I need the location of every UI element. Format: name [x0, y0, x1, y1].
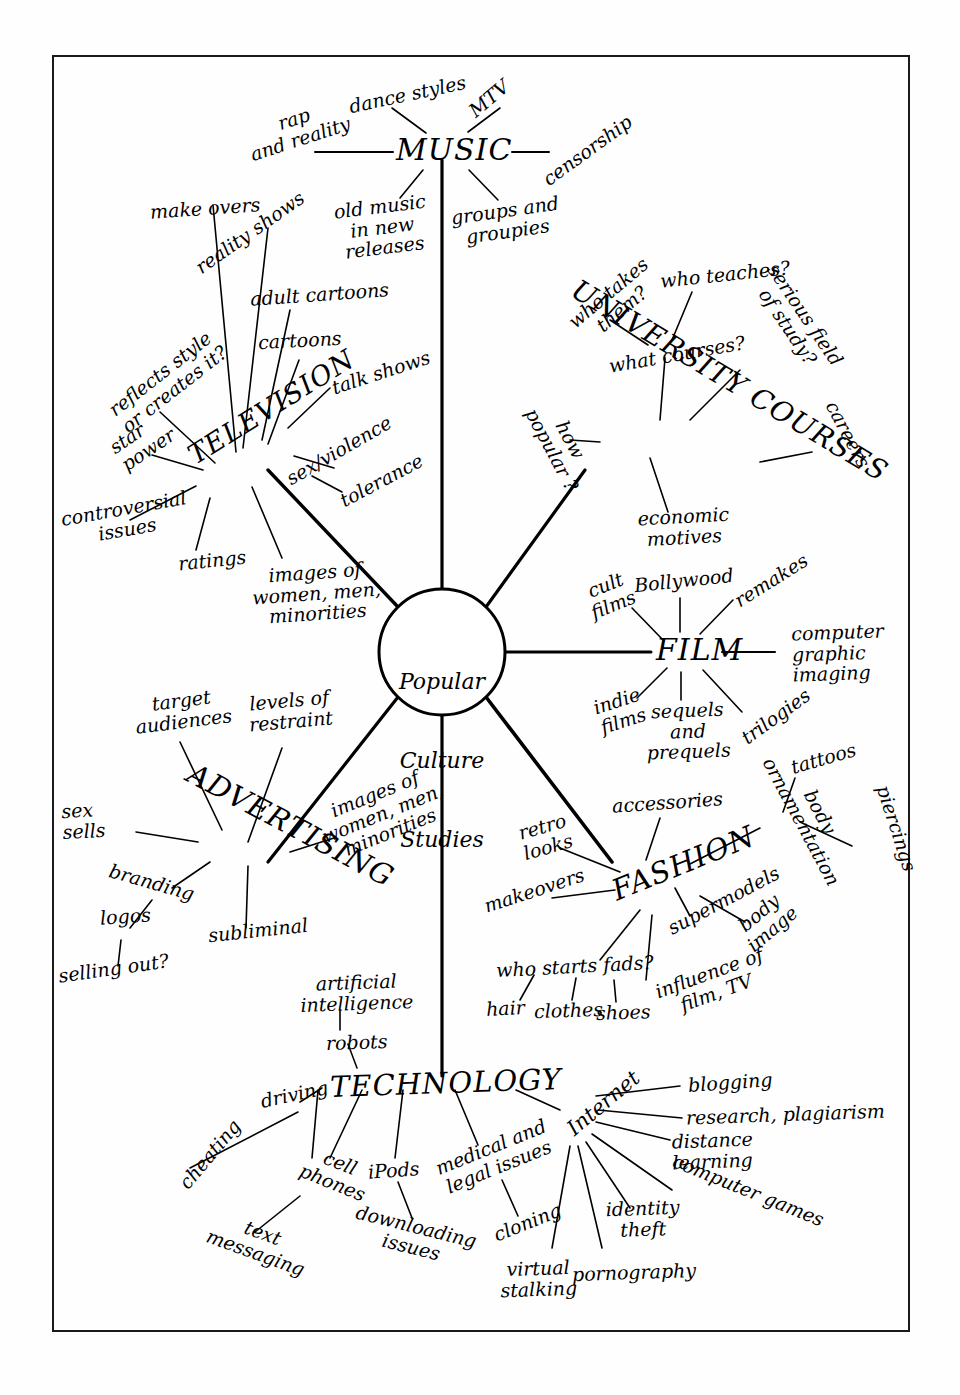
node-computer-graphic-imaging[interactable]: computer graphic imaging	[791, 620, 886, 685]
node-levels-of-restraint[interactable]: levels of restraint	[246, 686, 333, 734]
node-pornography[interactable]: pornography	[572, 1260, 697, 1285]
node-images-of-women-men-minorities-tv[interactable]: images of women, men, minorities	[250, 558, 383, 628]
node-clothes[interactable]: clothes	[534, 999, 604, 1022]
node-robots[interactable]: robots	[326, 1031, 388, 1054]
node-sex-sells[interactable]: sex sells	[61, 799, 106, 842]
node-virtual-stalking[interactable]: virtual stalking	[499, 1257, 577, 1301]
node-identity-theft[interactable]: identity theft	[605, 1197, 680, 1241]
node-cartoons[interactable]: cartoons	[258, 328, 343, 353]
node-hair[interactable]: hair	[485, 997, 525, 1020]
node-artificial-intelligence[interactable]: artificial intelligence	[299, 970, 413, 1015]
branch-music[interactable]: MUSIC	[396, 134, 512, 166]
center-line-1: Popular	[380, 669, 504, 695]
node-economic-motives[interactable]: economic motives	[637, 504, 731, 550]
node-old-music-in-new-releases[interactable]: old music in new releases	[333, 191, 432, 263]
branch-film[interactable]: FILM	[656, 634, 743, 666]
node-shoes[interactable]: shoes	[596, 1001, 651, 1023]
node-sequels-and-prequels[interactable]: sequels and prequels	[645, 699, 731, 763]
node-ipods[interactable]: iPods	[367, 1158, 420, 1182]
center-line-2: Culture	[380, 748, 504, 774]
node-logos[interactable]: logos	[99, 904, 151, 928]
mindmap-page: Popular Culture Studies MUSIC rap and re…	[0, 0, 960, 1395]
